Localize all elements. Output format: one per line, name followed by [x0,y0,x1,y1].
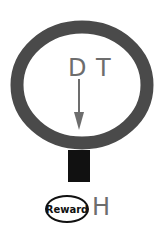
label-t: T [96,56,111,80]
arrow-head-icon [74,112,84,130]
reward-label: Reward [46,204,89,215]
diagram-canvas [0,0,164,232]
stem [68,150,90,182]
ring [17,27,147,143]
label-h: H [92,195,110,219]
reward-node: Reward [45,195,89,223]
label-d: D [68,56,86,80]
